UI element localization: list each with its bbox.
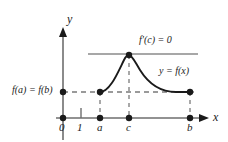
x-axis-label: x bbox=[213, 111, 218, 123]
point-a bbox=[97, 89, 103, 95]
rolles-theorem-figure: y x f'(c) = 0 y = f(x) f(a) = f(b) 0 1 a… bbox=[0, 0, 228, 142]
x-tick-label-1: 1 bbox=[77, 122, 83, 133]
point-fa-on-y-axis bbox=[60, 89, 66, 95]
x-tick-label-0: 0 bbox=[59, 122, 65, 133]
endpoint-value-label: f(a) = f(b) bbox=[12, 85, 53, 95]
x-axis-arrow-icon bbox=[199, 114, 209, 122]
function-label: y = f(x) bbox=[159, 66, 189, 76]
figure-canvas bbox=[0, 0, 228, 142]
point-c-peak bbox=[126, 52, 132, 58]
x-tick-label-a: a bbox=[97, 122, 103, 133]
point-b bbox=[187, 89, 193, 95]
x-tick-label-c: c bbox=[126, 122, 131, 133]
y-axis-arrow-icon bbox=[59, 27, 67, 37]
derivative-label: f'(c) = 0 bbox=[139, 35, 172, 45]
y-axis-label: y bbox=[67, 13, 72, 25]
x-tick-label-b: b bbox=[187, 122, 193, 133]
